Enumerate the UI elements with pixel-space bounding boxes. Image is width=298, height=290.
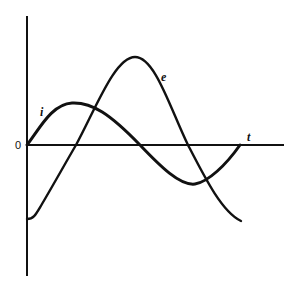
origin-label: 0 [15, 140, 21, 151]
curve-i-label: i [40, 106, 43, 118]
diagram-svg [0, 0, 298, 290]
waveform-diagram: 0 t i e [0, 0, 298, 290]
curve-i [27, 103, 240, 184]
curve-e-label: e [161, 71, 166, 83]
t-axis-label: t [247, 131, 250, 143]
